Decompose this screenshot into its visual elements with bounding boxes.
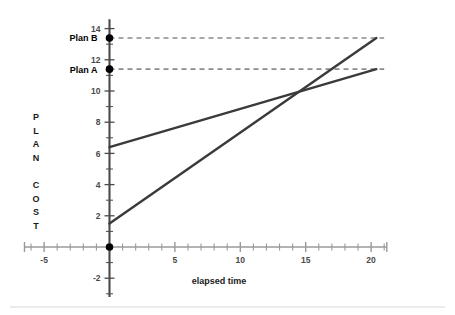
data-point-marker (106, 65, 114, 73)
plan-cost-chart: -55101520 -22468101214 Plan BPlan A elap… (0, 0, 455, 315)
y-axis-tick-label: 8 (96, 117, 101, 127)
y-axis-title-char: N (33, 153, 40, 163)
guide-lines (110, 38, 385, 69)
series-marker-labels: Plan BPlan A (69, 33, 98, 74)
y-axis-tick-label: 4 (96, 180, 101, 190)
x-axis-tick-label: 10 (236, 255, 246, 265)
y-axis-title: PLANCOST (32, 112, 39, 231)
y-axis-title-char: A (33, 139, 40, 149)
data-point-marker (106, 243, 114, 251)
y-axis-title-char: S (33, 207, 39, 217)
x-axis-tick-label: -5 (40, 255, 48, 265)
y-axis-title-char: L (33, 126, 39, 136)
marker-label-plan-a: Plan A (70, 65, 98, 75)
x-axis-tick-label: 5 (173, 255, 178, 265)
y-axis-tick-label: 2 (96, 211, 101, 221)
series-line-plan-b (110, 38, 377, 224)
data-point-marker (106, 34, 114, 42)
y-axis-tick-label: 10 (91, 86, 101, 96)
y-axis-tick-label: 12 (91, 55, 101, 65)
y-axis-title-char: P (33, 112, 39, 122)
x-axis-tick-label: 20 (366, 255, 376, 265)
x-axis-title: elapsed time (192, 276, 247, 286)
x-axis-tick-labels: -55101520 (40, 255, 376, 265)
y-axis-tick-label: -2 (93, 273, 101, 283)
series-line-plan-a (110, 69, 377, 147)
chart-canvas: -55101520 -22468101214 Plan BPlan A elap… (0, 0, 455, 315)
x-axis-tick-label: 15 (301, 255, 311, 265)
y-axis-title-char: T (33, 221, 39, 231)
y-axis-tick-label: 14 (91, 24, 101, 34)
y-axis-tick-label: 6 (96, 149, 101, 159)
series-lines (110, 38, 377, 224)
y-axis-title-char: O (32, 194, 39, 204)
marker-label-plan-b: Plan B (69, 33, 98, 43)
y-axis-title-char: C (33, 180, 40, 190)
